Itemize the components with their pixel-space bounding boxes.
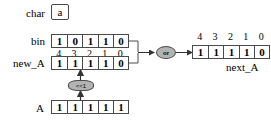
nexta-index-row: 4 3 2 1 0 — [192, 31, 270, 42]
nexta-index: 2 — [223, 31, 238, 42]
nexta-bit: 1 — [208, 46, 223, 58]
a-bit: 1 — [67, 101, 82, 113]
newa-bit-row: 1 1 1 1 0 — [51, 56, 129, 70]
nexta-index: 1 — [238, 31, 253, 42]
a-bit: 1 — [82, 101, 97, 113]
or-label: or — [163, 50, 169, 56]
newa-bit: 1 — [67, 57, 82, 69]
bin-bit: 1 — [98, 35, 113, 47]
a-bit-row: 1 1 1 1 1 — [51, 100, 129, 114]
nexta-index: 4 — [192, 31, 207, 42]
nexta-bit: 0 — [254, 46, 269, 58]
nexta-bit: 1 — [239, 46, 254, 58]
nexta-bit: 1 — [193, 46, 208, 58]
bin-bit: 0 — [113, 35, 128, 47]
nexta-index: 0 — [254, 31, 269, 42]
bin-bit: 0 — [67, 35, 82, 47]
newa-to-or-wire — [128, 53, 138, 63]
bin-bit-row: 1 0 1 1 0 — [51, 34, 129, 48]
or-operator: or — [156, 46, 176, 59]
shift-left-operator: <<1 — [68, 80, 94, 91]
a-bit: 1 — [113, 101, 128, 113]
char-value-box: a — [51, 4, 69, 20]
a-bit: 1 — [98, 101, 113, 113]
nexta-index: 3 — [207, 31, 222, 42]
newa-bit: 1 — [52, 57, 67, 69]
newa-label: new_A — [13, 58, 45, 69]
diagram-canvas: char a bin 1 0 1 1 0 4 3 2 1 0 new_A 1 1… — [0, 0, 271, 124]
char-value: a — [58, 6, 63, 18]
a-bit: 1 — [52, 101, 67, 113]
bin-bit: 1 — [82, 35, 97, 47]
char-label: char — [26, 8, 45, 19]
a-label: A — [36, 103, 44, 114]
newa-bit: 0 — [113, 57, 128, 69]
bin-to-or-wire — [128, 41, 138, 52]
bin-bit: 1 — [52, 35, 67, 47]
shift-left-label: <<1 — [76, 83, 86, 89]
nexta-bit-row: 1 1 1 1 0 — [192, 45, 270, 59]
bin-label: bin — [31, 36, 45, 47]
nexta-label: next_A — [226, 62, 258, 73]
nexta-bit: 1 — [223, 46, 238, 58]
newa-bit: 1 — [98, 57, 113, 69]
newa-bit: 1 — [82, 57, 97, 69]
